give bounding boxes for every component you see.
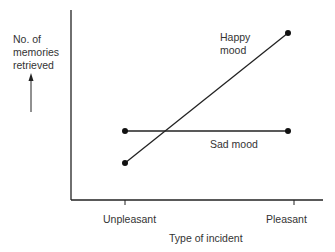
point-sad-pleasant	[285, 128, 291, 134]
sad-mood-label: Sad mood	[210, 138, 258, 151]
x-category-pleasant: Pleasant	[266, 213, 307, 226]
happy-label-line: mood	[220, 44, 250, 57]
arrow-head-icon	[29, 73, 34, 81]
y-label-line: No. of	[13, 33, 59, 46]
happy-label-line: Happy	[220, 31, 250, 44]
y-label-line: retrieved	[13, 59, 59, 72]
point-happy-pleasant	[285, 30, 291, 36]
point-happy-unpleasant	[122, 160, 128, 166]
series-happy-mood	[125, 33, 288, 163]
point-sad-unpleasant	[122, 128, 128, 134]
happy-mood-label: Happy mood	[220, 31, 250, 57]
x-category-unpleasant: Unpleasant	[103, 213, 156, 226]
x-axis-title: Type of incident	[169, 232, 243, 245]
y-axis-label: No. of memories retrieved	[13, 33, 59, 72]
y-label-line: memories	[13, 46, 59, 59]
